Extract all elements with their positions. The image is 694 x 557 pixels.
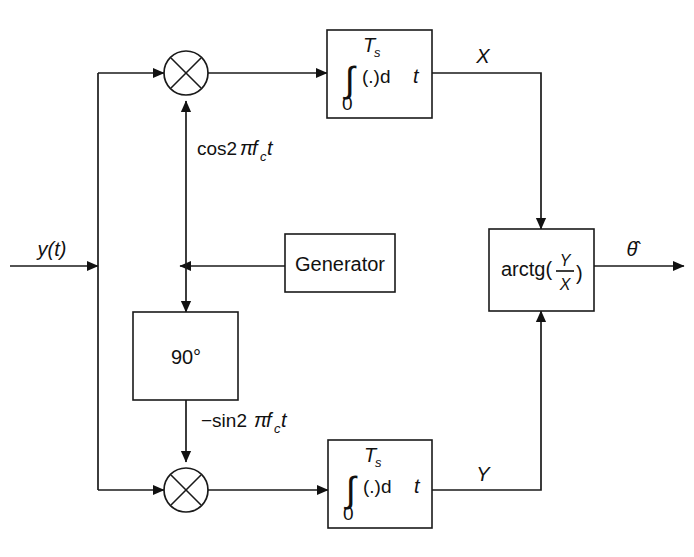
integral-upper-limit-sub-lower: s xyxy=(375,455,382,470)
carrier-quadrature-prefix: −sin2 xyxy=(201,410,247,431)
carrier-inphase-f: f xyxy=(252,137,260,159)
arctangent-label-prefix: arctg( xyxy=(501,258,552,280)
integral-lower-limit-lower: 0 xyxy=(343,503,354,524)
integral-lower-limit-upper: 0 xyxy=(342,93,353,114)
input-signal-label: y(t) xyxy=(36,238,67,260)
integral-upper-limit-sub-upper: s xyxy=(374,45,381,60)
carrier-quadrature-subscript: c xyxy=(274,421,281,436)
carrier-quadrature-t: t xyxy=(281,409,288,431)
diagram-svg: ∫ T s 0 (.)d t ∫ T s 0 (.)d t Generator … xyxy=(0,0,694,557)
wire-X-to-arctg xyxy=(432,73,541,229)
label-X: X xyxy=(475,45,490,67)
arctangent-denominator: X xyxy=(559,276,572,293)
block-diagram-canvas: ∫ T s 0 (.)d t ∫ T s 0 (.)d t Generator … xyxy=(0,0,694,557)
carrier-inphase-subscript: c xyxy=(260,149,267,164)
carrier-inphase-t: t xyxy=(267,137,274,159)
label-Y: Y xyxy=(476,463,491,485)
phase-shifter-label: 90° xyxy=(171,346,201,368)
arctangent-label-suffix: ) xyxy=(576,262,583,284)
arctangent-numerator: Y xyxy=(560,252,572,269)
integrand-upper: (.)d xyxy=(362,66,391,87)
integrand-lower: (.)d xyxy=(363,476,392,497)
generator-label: Generator xyxy=(295,253,385,275)
carrier-inphase-prefix: cos2 xyxy=(197,138,237,159)
output-signal-label: θ̂ xyxy=(627,238,642,260)
carrier-quadrature-f: f xyxy=(266,409,274,431)
